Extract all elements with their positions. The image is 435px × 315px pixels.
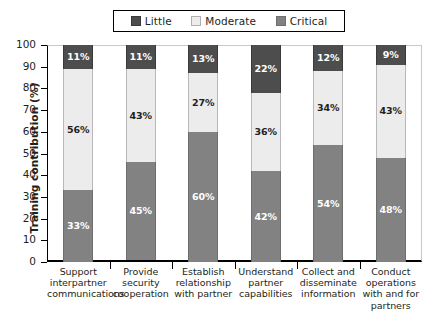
legend-item-little: Little	[131, 15, 172, 27]
bar-column: 9%43%48%	[360, 45, 423, 262]
x-axis-label: Supportinterpartnercommunications	[47, 266, 110, 300]
bar-column: 22%36%42%	[235, 45, 298, 262]
bar-segment-value: 54%	[317, 199, 339, 209]
bar-segment-value: 43%	[130, 111, 152, 121]
y-axis-tick-label: 100	[16, 38, 36, 50]
bar-segment-value: 13%	[192, 54, 214, 64]
bar-segment-little[interactable]: 13%	[188, 45, 218, 73]
y-axis-tick-label: 40	[23, 168, 36, 180]
x-axis-label-line: communications	[47, 288, 110, 299]
bar-stack[interactable]: 13%27%60%	[188, 45, 218, 262]
bar-segment-value: 11%	[67, 52, 89, 62]
x-axis-label-line: information	[297, 288, 360, 299]
x-axis-label-line: relationship	[172, 277, 235, 288]
x-axis-label-line: cooperation	[110, 288, 173, 299]
x-axis-label-line: partner	[235, 277, 298, 288]
bar-segment-moderate[interactable]: 43%	[376, 65, 406, 158]
x-axis-label: Understandpartnercapabilities	[235, 266, 298, 300]
x-axis-label-line: security	[110, 277, 173, 288]
bar-segment-little[interactable]: 22%	[251, 45, 281, 93]
bar-segment-value: 9%	[383, 50, 399, 60]
x-axis-label-line: Establish	[172, 266, 235, 277]
bar-segment-moderate[interactable]: 43%	[126, 69, 156, 162]
y-axis-tick-label: 80	[23, 81, 36, 93]
legend-swatch-little	[131, 16, 141, 26]
bar-column: 11%43%45%	[110, 45, 173, 262]
bar-column: 13%27%60%	[172, 45, 235, 262]
bar-segment-value: 11%	[130, 52, 152, 62]
x-axis-label-line: operations	[360, 277, 423, 288]
bar-segment-critical[interactable]: 42%	[251, 171, 281, 262]
x-axis-label-line: disseminate	[297, 277, 360, 288]
x-axis-label-line: Provide	[110, 266, 173, 277]
legend-label-critical: Critical	[290, 15, 328, 27]
bar-segment-moderate[interactable]: 27%	[188, 73, 218, 132]
x-axis-label-line: Support	[47, 266, 110, 277]
x-axis-label-line: Conduct	[360, 266, 423, 277]
bar-segment-moderate[interactable]: 36%	[251, 93, 281, 171]
bar-segment-value: 60%	[192, 192, 214, 202]
x-axis-label-line: interpartner	[47, 277, 110, 288]
bar-column: 12%34%54%	[297, 45, 360, 262]
x-axis-label-line: with partner	[172, 288, 235, 299]
y-axis-tick-label: 60	[23, 125, 36, 137]
x-axis-label-line: capabilities	[235, 288, 298, 299]
bar-segment-critical[interactable]: 48%	[376, 158, 406, 262]
bar-segment-critical[interactable]: 45%	[126, 162, 156, 260]
legend-item-moderate: Moderate	[191, 15, 256, 27]
y-axis-tick-label: 10	[23, 233, 36, 245]
y-axis-tick-label: 0	[29, 255, 36, 267]
x-axis-label: Conductoperationswith and forpartners	[360, 266, 423, 311]
bar-series-layer: 11%56%33%11%43%45%13%27%60%22%36%42%12%3…	[47, 45, 422, 262]
bar-segment-value: 42%	[255, 212, 277, 222]
bar-stack[interactable]: 12%34%54%	[313, 45, 343, 262]
legend-swatch-moderate	[191, 16, 201, 26]
bar-segment-value: 48%	[380, 205, 402, 215]
bar-segment-value: 22%	[255, 64, 277, 74]
x-axis-label-line: partners	[360, 300, 423, 311]
bar-segment-value: 56%	[67, 125, 89, 135]
bar-segment-little[interactable]: 12%	[313, 45, 343, 71]
bar-segment-little[interactable]: 9%	[376, 45, 406, 65]
bar-segment-value: 33%	[67, 221, 89, 231]
stacked-bar-chart: Little Moderate Critical Training contri…	[0, 0, 435, 315]
y-axis-tick-label: 50	[23, 147, 36, 159]
x-axis-label-line: Understand	[235, 266, 298, 277]
bar-segment-moderate[interactable]: 56%	[63, 69, 93, 191]
x-axis-label-line: Collect and	[297, 266, 360, 277]
legend-label-little: Little	[145, 15, 172, 27]
legend-label-moderate: Moderate	[205, 15, 256, 27]
x-axis-label-line: with and for	[360, 288, 423, 299]
y-axis-tick-label: 70	[23, 103, 36, 115]
bar-stack[interactable]: 22%36%42%	[251, 45, 281, 262]
bar-segment-value: 45%	[130, 206, 152, 216]
x-axis-label: Establishrelationshipwith partner	[172, 266, 235, 300]
y-axis-tick-mark	[41, 262, 47, 263]
bar-segment-critical[interactable]: 54%	[313, 145, 343, 262]
bar-segment-moderate[interactable]: 34%	[313, 71, 343, 145]
bar-segment-value: 36%	[255, 127, 277, 137]
bar-column: 11%56%33%	[47, 45, 110, 262]
y-axis-tick-label: 30	[23, 190, 36, 202]
bar-segment-value: 27%	[192, 98, 214, 108]
y-axis-tick-label: 20	[23, 212, 36, 224]
legend-item-critical: Critical	[276, 15, 328, 27]
x-axis-label: Collect anddisseminateinformation	[297, 266, 360, 300]
chart-legend: Little Moderate Critical	[113, 10, 345, 32]
bar-stack[interactable]: 11%43%45%	[126, 45, 156, 262]
bar-segment-value: 43%	[380, 106, 402, 116]
x-axis-labels: SupportinterpartnercommunicationsProvide…	[47, 266, 422, 315]
bar-segment-critical[interactable]: 33%	[63, 190, 93, 262]
bar-segment-little[interactable]: 11%	[126, 45, 156, 69]
bar-segment-critical[interactable]: 60%	[188, 132, 218, 262]
legend-swatch-critical	[276, 16, 286, 26]
bar-stack[interactable]: 9%43%48%	[376, 45, 406, 262]
bar-segment-little[interactable]: 11%	[63, 45, 93, 69]
bar-segment-value: 34%	[317, 103, 339, 113]
y-axis-tick-label: 90	[23, 60, 36, 72]
bar-segment-value: 12%	[317, 53, 339, 63]
x-axis-label: Providesecuritycooperation	[110, 266, 173, 300]
bar-stack[interactable]: 11%56%33%	[63, 45, 93, 262]
